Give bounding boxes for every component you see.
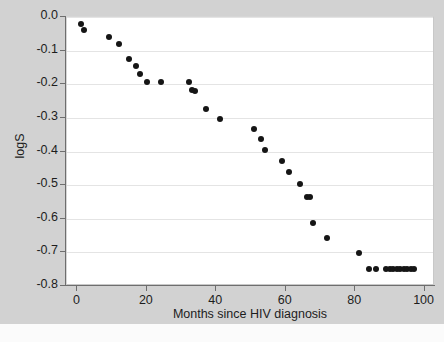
y-tick-label: -0.5 — [16, 177, 58, 190]
data-point — [133, 63, 139, 69]
data-point — [356, 250, 362, 256]
data-point — [279, 158, 285, 164]
data-point — [203, 106, 209, 112]
data-point — [307, 194, 313, 200]
y-axis-title: logS — [13, 116, 27, 176]
data-point — [81, 27, 87, 33]
data-point — [158, 79, 164, 85]
data-point — [324, 235, 330, 241]
data-point — [116, 41, 122, 47]
x-tick-mark — [146, 286, 147, 291]
chart-figure: 0.0-0.1-0.2-0.3-0.4-0.5-0.6-0.7-0.8 0204… — [0, 0, 444, 342]
y-tick-mark — [60, 50, 65, 51]
x-tick-label: 60 — [262, 293, 308, 307]
y-tick-mark — [60, 117, 65, 118]
y-axis-line — [65, 16, 66, 286]
y-tick-mark — [60, 184, 65, 185]
x-tick-mark — [285, 286, 286, 291]
data-point — [106, 34, 112, 40]
y-tick-label: -0.7 — [16, 244, 58, 257]
graph-region: 0.0-0.1-0.2-0.3-0.4-0.5-0.6-0.7-0.8 0204… — [6, 4, 438, 320]
x-tick-mark — [215, 286, 216, 291]
x-tick-label: 80 — [331, 293, 377, 307]
data-point — [192, 88, 198, 94]
data-point — [186, 79, 192, 85]
y-tick-mark — [60, 218, 65, 219]
data-point — [78, 21, 84, 27]
gridline — [67, 17, 433, 18]
data-point — [366, 266, 372, 272]
y-tick-label: -0.2 — [16, 76, 58, 89]
x-axis-line — [65, 285, 435, 286]
x-tick-mark — [76, 286, 77, 291]
y-tick-mark — [60, 285, 65, 286]
data-point — [258, 136, 264, 142]
y-tick-label: -0.8 — [16, 278, 58, 291]
data-point — [126, 56, 132, 62]
x-tick-label: 100 — [401, 293, 444, 307]
y-tick-label: 0.0 — [16, 9, 58, 22]
data-point — [262, 147, 268, 153]
gridline — [67, 51, 433, 52]
plot-area — [66, 16, 434, 285]
gridline — [67, 84, 433, 85]
y-tick-label: -0.6 — [16, 211, 58, 224]
y-tick-mark — [60, 151, 65, 152]
x-tick-label: 0 — [53, 293, 99, 307]
data-point — [251, 126, 257, 132]
y-tick-mark — [60, 16, 65, 17]
data-point — [137, 71, 143, 77]
x-tick-label: 40 — [192, 293, 238, 307]
x-tick-mark — [354, 286, 355, 291]
data-point — [217, 116, 223, 122]
x-tick-label: 20 — [123, 293, 169, 307]
y-tick-label: -0.1 — [16, 43, 58, 56]
gridline — [67, 219, 433, 220]
gridline — [67, 152, 433, 153]
data-point — [373, 266, 379, 272]
gridline — [67, 252, 433, 253]
data-point — [297, 181, 303, 187]
x-axis-title: Months since HIV diagnosis — [66, 307, 434, 321]
data-point — [310, 220, 316, 226]
y-tick-mark — [60, 83, 65, 84]
gridline — [67, 118, 433, 119]
data-point — [411, 266, 417, 272]
gridline — [67, 185, 433, 186]
x-tick-mark — [424, 286, 425, 291]
y-tick-mark — [60, 251, 65, 252]
figure-bottom-strip — [0, 324, 444, 342]
data-point — [286, 169, 292, 175]
